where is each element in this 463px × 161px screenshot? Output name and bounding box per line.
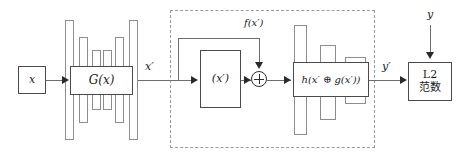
l2-norm-line2: 范数	[419, 82, 441, 95]
reconstructor-box[interactable]: h(x′ ⊕ g(x′))	[293, 62, 369, 97]
feature-box[interactable]: (x′)	[200, 50, 241, 108]
edge-reconstructor-to-l2	[369, 80, 403, 81]
edge-generator-to-feature	[138, 80, 193, 81]
l2-norm-line1: L2	[423, 69, 437, 82]
sum-operator-icon[interactable]	[251, 71, 267, 87]
generator-box[interactable]: G(x)	[70, 66, 133, 95]
arrow-generator-to-feature	[191, 76, 198, 84]
generator-label: G(x)	[89, 74, 115, 88]
reconstructor-label: h(x′ ⊕ g(x′))	[301, 74, 360, 86]
arrow-target-to-l2	[426, 52, 434, 59]
arrow-feature-to-sum	[244, 76, 251, 84]
edge-label-f-x-prime: f(x′)	[244, 17, 263, 28]
arrow-skip-into-sum	[255, 62, 263, 69]
input-x-box[interactable]: x	[18, 66, 46, 94]
plus-vertical-stroke	[259, 74, 260, 84]
l2-norm-box[interactable]: L2 范数	[408, 62, 452, 101]
feature-label: (x′)	[212, 73, 229, 86]
arrow-sum-to-reconstructor	[284, 76, 291, 84]
input-x-label: x	[29, 74, 35, 87]
arrow-reconstructor-to-l2	[400, 76, 407, 84]
diagram-canvas: x G(x) (x′) h(x′ ⊕ g(x′)) L2 范数 x′ f(x′)…	[0, 0, 463, 161]
edge-label-x-prime: x′	[145, 60, 154, 73]
edge-label-y-target: y	[427, 8, 433, 21]
skip-connection-riser	[178, 38, 179, 80]
edge-label-y-prime: y′	[382, 60, 391, 73]
arrow-input-to-generator	[62, 76, 69, 84]
skip-connection-top	[178, 38, 259, 39]
